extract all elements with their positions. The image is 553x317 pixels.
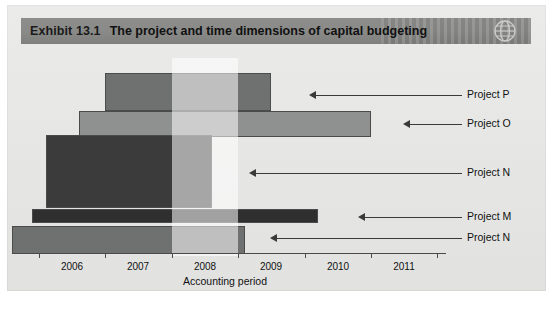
x-tick-label: 2006 bbox=[49, 261, 95, 272]
bar-project-p bbox=[105, 73, 271, 111]
callout-line-project-p bbox=[316, 95, 462, 96]
arrow-icon-project-o bbox=[403, 120, 410, 128]
x-tick bbox=[371, 253, 372, 258]
label-project-m: Project M bbox=[467, 210, 511, 222]
x-tick bbox=[172, 253, 173, 258]
bar-project-n-small bbox=[12, 226, 244, 254]
label-project-n-big: Project N bbox=[467, 166, 510, 178]
x-tick bbox=[238, 253, 239, 258]
bar-project-m bbox=[32, 209, 318, 223]
label-project-o: Project O bbox=[467, 117, 511, 129]
exhibit-header-bar: Exhibit 13.1 The project and time dimens… bbox=[21, 18, 531, 44]
arrow-icon-project-m bbox=[358, 213, 365, 221]
callout-line-project-n-big bbox=[256, 173, 462, 174]
label-project-p: Project P bbox=[467, 88, 510, 100]
x-tick bbox=[105, 253, 106, 258]
arrow-icon-project-n-small bbox=[270, 234, 277, 242]
bar-project-n-big bbox=[46, 135, 212, 208]
exhibit-number: Exhibit 13.1 bbox=[30, 24, 101, 38]
callout-line-project-n-small bbox=[277, 238, 462, 239]
x-tick bbox=[437, 253, 438, 258]
x-tick-label: 2008 bbox=[182, 261, 228, 272]
globe-icon bbox=[493, 19, 517, 43]
x-tick-label: 2009 bbox=[248, 261, 294, 272]
x-axis-title: Accounting period bbox=[0, 275, 553, 287]
plot-area bbox=[31, 58, 451, 258]
exhibit-figure: Exhibit 13.1 The project and time dimens… bbox=[0, 0, 553, 317]
x-tick bbox=[305, 253, 306, 258]
x-tick-label: 2010 bbox=[315, 261, 361, 272]
label-project-n-small: Project N bbox=[467, 231, 510, 243]
bar-project-o bbox=[79, 111, 371, 137]
callout-line-project-m bbox=[365, 217, 462, 218]
x-tick bbox=[39, 253, 40, 258]
exhibit-title: The project and time dimensions of capit… bbox=[110, 24, 427, 38]
arrow-icon-project-n-big bbox=[249, 169, 256, 177]
callout-line-project-o bbox=[410, 124, 462, 125]
x-tick-label: 2007 bbox=[115, 261, 161, 272]
x-axis-title-text: Accounting period bbox=[183, 275, 267, 287]
x-tick-label: 2011 bbox=[381, 261, 427, 272]
arrow-icon-project-p bbox=[309, 91, 316, 99]
